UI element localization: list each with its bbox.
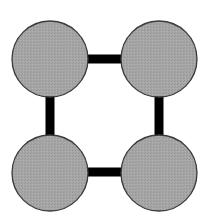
node-bottom-left: [12, 135, 88, 211]
node-bottom-right: [121, 135, 197, 211]
node-top-left: [12, 21, 88, 97]
nodes-group: [12, 21, 197, 211]
node-top-right: [121, 21, 197, 97]
square-graph-diagram: [0, 0, 210, 221]
